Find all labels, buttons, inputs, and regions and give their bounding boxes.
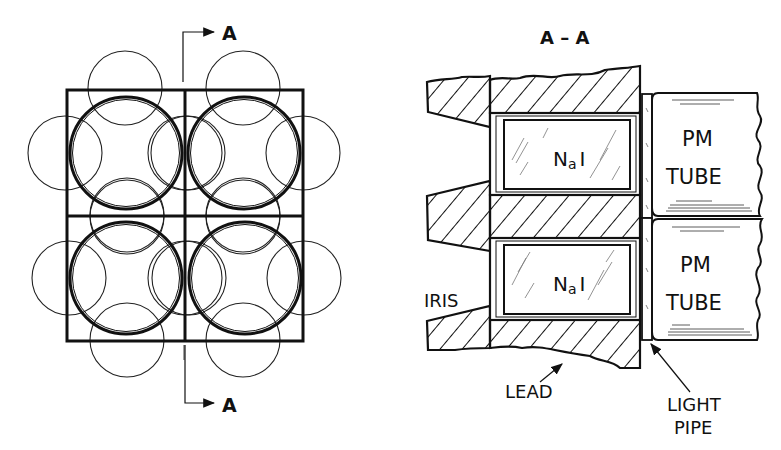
plan-view: A A (28, 22, 341, 416)
section-title: A – A (540, 27, 589, 48)
detector-circle (70, 97, 182, 209)
iris-label: IRIS (424, 290, 459, 311)
lead-leader (540, 364, 562, 382)
section-view: A – A (424, 27, 762, 438)
pm-tube-top (652, 93, 762, 216)
section-marker-bottom: A (222, 394, 237, 416)
lead-shield (490, 66, 640, 368)
detector-circle (189, 222, 301, 334)
pm-tube-top-label-line2: TUBE (665, 165, 722, 189)
section-marker-top: A (222, 22, 237, 44)
light-pipe-label-line1: LIGHT (667, 394, 722, 415)
light-pipe (642, 94, 652, 340)
pm-tube-bottom-label-line1: PM (680, 253, 711, 277)
detector-circle (70, 222, 182, 334)
detector-circle (188, 97, 300, 209)
pm-tube-bottom (652, 219, 762, 340)
light-pipe-leader (651, 344, 690, 392)
light-pipe-label-line2: PIPE (674, 417, 712, 438)
collimator-grid (67, 90, 303, 341)
pm-tube-top-label-line1: PM (682, 127, 713, 151)
detector-array-figure: A A A – A (0, 0, 781, 450)
pm-tube-bottom-label-line2: TUBE (665, 291, 722, 315)
lead-label: LEAD (505, 381, 553, 402)
